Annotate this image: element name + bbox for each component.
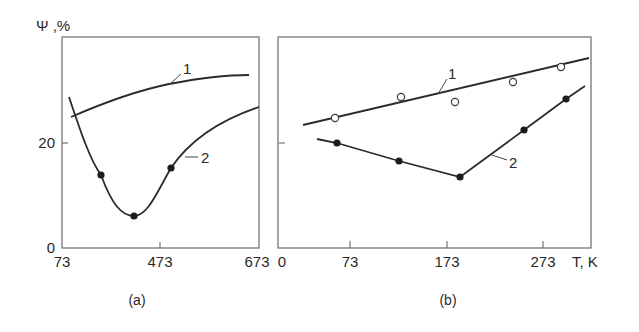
panel-a-curve-2 <box>69 97 259 216</box>
panel-b-series-2-point <box>562 95 569 102</box>
panel-a-curve-2-point <box>97 171 104 178</box>
panel-a-xtick-label-473: 473 <box>147 253 172 270</box>
panel-b-xtick-label-273: 273 <box>530 253 555 270</box>
panel-b-series-2-point <box>520 126 527 133</box>
panel-a-curve-2-point <box>167 164 174 171</box>
panel-b-xtick-label-73: 73 <box>342 253 359 270</box>
panel-a-xtick-label-73: 73 <box>54 253 71 270</box>
panel-a-axes-frame <box>62 37 259 248</box>
panel-b-series-2-point <box>395 157 402 164</box>
panel-b-series-1-point <box>509 78 516 85</box>
panel-a-curve-1 <box>71 75 249 117</box>
y-axis-label: Ψ ,% <box>36 17 70 34</box>
panel-b-series-2-point <box>456 173 463 180</box>
panel-a: 20 0 73 473 673 1 2 (a) <box>38 37 269 308</box>
panel-b-line-2-leader <box>492 155 507 160</box>
panel-a-caption: (a) <box>128 292 145 308</box>
panel-b-series-1-point <box>451 98 458 105</box>
panel-b-line-2-label: 2 <box>509 154 517 171</box>
panel-a-ytick-label-20: 20 <box>38 134 55 151</box>
panel-b-caption: (b) <box>439 292 456 308</box>
panel-b-series-1-point <box>397 93 404 100</box>
panel-a-curve-1-label: 1 <box>183 60 191 77</box>
panel-b-series-2-point <box>333 139 340 146</box>
panel-b-series-1-point <box>557 63 564 70</box>
panel-b: 0 73 173 273 T, K 1 2 (b) <box>278 37 598 308</box>
panel-a-curve-2-point <box>130 212 137 219</box>
panel-a-xtick-label-673: 673 <box>244 253 269 270</box>
panel-b-line-1 <box>303 58 589 125</box>
panel-b-line-1-label: 1 <box>448 65 456 82</box>
panel-b-xtick-label-173: 173 <box>434 253 459 270</box>
panel-b-series-1-point <box>331 114 338 121</box>
figure: Ψ ,% 20 0 73 473 673 1 2 (a) 0 73 <box>0 0 639 332</box>
panel-b-xtick-label-0: 0 <box>278 253 286 270</box>
panel-b-x-axis-label: T, K <box>572 253 598 270</box>
panel-b-line-2 <box>317 86 585 177</box>
panel-a-curve-2-label: 2 <box>201 149 209 166</box>
